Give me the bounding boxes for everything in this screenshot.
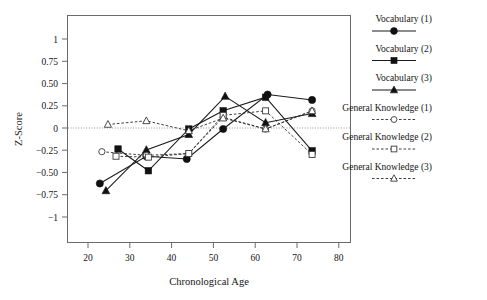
data-point-filled-square	[115, 146, 121, 152]
y-tick-label: 0.25	[41, 101, 58, 111]
data-point-filled-circle	[308, 96, 315, 103]
data-point-filled-circle	[220, 125, 227, 132]
legend-marker-open-square	[391, 146, 397, 152]
legend-marker-open-circle	[391, 117, 397, 123]
x-axis-title: Chronological Age	[169, 276, 249, 287]
legend-label[interactable]: General Knowledge (2)	[342, 132, 432, 143]
data-point-open-square	[113, 153, 119, 159]
z-score-by-age-chart: 1 0.75 0.50 0.25 0 −0.25 −0.50 −0.75 −1 …	[0, 0, 487, 300]
legend-label[interactable]: General Knowledge (3)	[342, 162, 432, 173]
x-tick-label: 30	[125, 253, 135, 263]
y-tick-label: −0.25	[36, 146, 58, 156]
legend-label[interactable]: Vocabulary (2)	[375, 44, 432, 55]
data-point-filled-circle	[96, 180, 103, 187]
legend-marker-filled-circle	[391, 28, 398, 35]
x-tick-label: 60	[250, 253, 260, 263]
x-tick-label: 70	[292, 253, 302, 263]
y-tick-label: 0.75	[41, 57, 58, 67]
x-tick-label: 20	[83, 253, 93, 263]
x-tick-label: 80	[334, 253, 344, 263]
x-tick-label: 50	[209, 253, 219, 263]
data-point-open-circle	[99, 149, 105, 155]
data-point-open-square	[186, 151, 192, 157]
data-point-open-square	[263, 108, 269, 114]
legend-marker-filled-square	[391, 57, 397, 63]
y-tick-label: −1	[48, 213, 58, 223]
data-point-filled-square	[145, 168, 151, 174]
data-point-filled-square	[262, 94, 268, 100]
legend-label[interactable]: Vocabulary (3)	[375, 73, 432, 84]
y-tick-label: 0.50	[41, 79, 58, 89]
x-tick-label: 40	[167, 253, 177, 263]
data-point-open-square	[309, 151, 315, 157]
y-tick-label: 1	[53, 35, 58, 45]
y-axis-title: Z-Score	[13, 112, 24, 146]
y-tick-label: 0	[53, 124, 58, 134]
legend-label[interactable]: Vocabulary (1)	[375, 14, 432, 25]
y-tick-label: −0.50	[36, 168, 58, 178]
legend-label[interactable]: General Knowledge (1)	[342, 103, 432, 114]
y-tick-label: −0.75	[36, 190, 58, 200]
data-point-open-square	[145, 154, 151, 160]
